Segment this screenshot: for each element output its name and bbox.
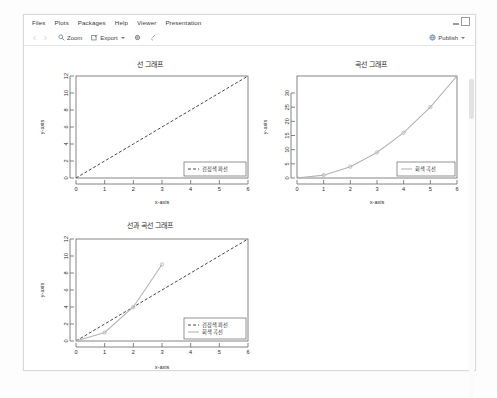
svg-text:0: 0: [284, 176, 290, 179]
svg-text:12: 12: [63, 73, 69, 79]
export-icon: [91, 34, 98, 41]
y-axis-label: y-axis: [262, 120, 268, 135]
plot-title: 선 그래프: [137, 60, 164, 69]
y-axis-ticks: 051015202530: [284, 90, 295, 180]
publish-chevron-down-icon: [461, 37, 465, 39]
x-axis-label: x-axis: [370, 199, 385, 205]
svg-text:2: 2: [132, 186, 135, 192]
svg-text:10: 10: [63, 90, 69, 96]
svg-text:5: 5: [218, 349, 221, 355]
window-controls: [453, 17, 470, 26]
x-axis-ticks: 0123456: [295, 180, 458, 192]
publish-button[interactable]: Publish: [429, 34, 465, 41]
plot-canvas: 선 그래프 024681012 0123456 검정색 파선 x-axis y-…: [24, 46, 475, 370]
svg-text:검정색 파선: 검정색 파선: [202, 321, 228, 329]
svg-text:2: 2: [132, 349, 135, 355]
plot-legend: 검정색 파선: [184, 162, 246, 176]
plots-toolbar: Zoom Export: [24, 30, 475, 46]
svg-text:0: 0: [63, 176, 69, 179]
svg-text:0: 0: [74, 186, 77, 192]
plot-title: 선과 곡선 그래프: [127, 221, 174, 230]
plot-curve-graph: 곡선 그래프 051015202530 0123456 회색 곡선 x-axis…: [259, 54, 469, 209]
y-axis-label: y-axis: [39, 283, 45, 298]
plot-line-and-curve-svg: 선과 곡선 그래프 024681012 0123456 검정색 파선회색 곡선 …: [32, 213, 262, 378]
plot-title: 곡선 그래프: [355, 60, 388, 69]
next-plot-icon[interactable]: [42, 35, 48, 41]
publish-icon: [429, 34, 436, 41]
svg-text:8: 8: [63, 271, 69, 274]
svg-text:3: 3: [375, 186, 378, 192]
svg-text:1: 1: [103, 186, 106, 192]
svg-text:5: 5: [284, 162, 290, 165]
plot-scrollbar-thumb[interactable]: [469, 79, 474, 119]
menu-item-viewer[interactable]: Viewer: [137, 19, 156, 26]
svg-text:검정색 파선: 검정색 파선: [202, 165, 228, 173]
svg-text:6: 6: [246, 349, 249, 355]
y-axis-label: y-axis: [39, 120, 45, 135]
svg-text:1: 1: [103, 349, 106, 355]
y-axis-ticks: 024681012: [63, 73, 74, 180]
x-axis-label: x-axis: [155, 364, 170, 370]
plot-line-and-curve-graph: 선과 곡선 그래프 024681012 0123456 검정색 파선회색 곡선 …: [32, 213, 262, 378]
svg-text:회색 곡선: 회색 곡선: [415, 165, 436, 173]
svg-text:3: 3: [160, 186, 163, 192]
svg-text:6: 6: [455, 186, 458, 192]
svg-text:0: 0: [74, 349, 77, 355]
toolbar-actions: Zoom Export: [58, 34, 166, 41]
remove-plot-button[interactable]: [134, 34, 141, 41]
svg-text:12: 12: [63, 236, 69, 242]
x-axis-label: x-axis: [155, 199, 170, 205]
x-axis-ticks: 0123456: [74, 343, 249, 355]
plot-scrollbar-track[interactable]: [469, 78, 474, 398]
menu-item-files[interactable]: Files: [32, 19, 46, 26]
svg-text:4: 4: [63, 305, 69, 308]
zoom-button-label: Zoom: [67, 35, 82, 41]
svg-text:4: 4: [63, 142, 69, 145]
plot-legend: 검정색 파선회색 곡선: [184, 318, 246, 339]
svg-text:15: 15: [284, 132, 290, 138]
magnifier-icon: [58, 34, 65, 41]
export-button-label: Export: [100, 35, 117, 41]
chevron-down-icon: [121, 37, 125, 39]
svg-text:5: 5: [218, 186, 221, 192]
svg-text:20: 20: [284, 118, 290, 124]
svg-text:4: 4: [189, 349, 192, 355]
publish-button-label: Publish: [438, 35, 458, 41]
svg-text:2: 2: [63, 322, 69, 325]
svg-text:6: 6: [63, 288, 69, 291]
export-button[interactable]: Export: [91, 34, 124, 41]
svg-text:4: 4: [402, 186, 405, 192]
svg-text:25: 25: [284, 104, 290, 110]
menu-item-presentation[interactable]: Presentation: [165, 19, 201, 26]
svg-text:6: 6: [63, 125, 69, 128]
plot-history-nav: [32, 35, 48, 41]
svg-text:5: 5: [429, 186, 432, 192]
svg-text:2: 2: [349, 186, 352, 192]
menu-bar: Files Plots Packages Help Viewer Present…: [24, 15, 475, 30]
y-axis-ticks: 024681012: [63, 236, 74, 343]
clear-all-plots-button[interactable]: [150, 34, 157, 41]
svg-text:6: 6: [246, 186, 249, 192]
svg-text:8: 8: [63, 108, 69, 111]
plot-legend: 회색 곡선: [397, 162, 455, 176]
x-axis-ticks: 0123456: [74, 180, 249, 192]
gear-icon: [134, 34, 141, 41]
menu-item-packages[interactable]: Packages: [78, 19, 106, 26]
svg-text:30: 30: [284, 90, 290, 96]
menu-item-plots[interactable]: Plots: [55, 19, 69, 26]
svg-text:2: 2: [63, 159, 69, 162]
svg-text:0: 0: [295, 186, 298, 192]
svg-text:3: 3: [160, 349, 163, 355]
zoom-button[interactable]: Zoom: [58, 34, 82, 41]
plot-line-graph: 선 그래프 024681012 0123456 검정색 파선 x-axis y-…: [32, 54, 262, 209]
maximize-icon[interactable]: [461, 17, 470, 26]
svg-text:1: 1: [322, 186, 325, 192]
broom-icon: [150, 34, 157, 41]
minimize-icon[interactable]: [453, 23, 459, 25]
svg-text:0: 0: [63, 339, 69, 342]
previous-plot-icon[interactable]: [32, 35, 38, 41]
svg-text:10: 10: [284, 147, 290, 153]
plot-curve-graph-svg: 곡선 그래프 051015202530 0123456 회색 곡선 x-axis…: [259, 54, 469, 209]
menu-item-help[interactable]: Help: [115, 19, 128, 26]
